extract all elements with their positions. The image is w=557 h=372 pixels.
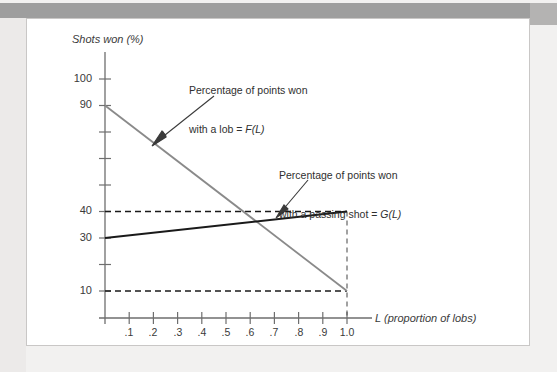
annotation-lob-line1: Percentage of points won — [189, 84, 308, 97]
annotation-lob-line2-prefix: with a lob = — [189, 123, 245, 135]
x-tick-label-0.5: .5 — [213, 326, 239, 338]
y-tick-label-10: 10 — [62, 284, 92, 296]
y-tick-label-40: 40 — [62, 204, 92, 216]
x-tick-label-1.0: 1.0 — [334, 326, 360, 338]
x-tick-label-0.9: .9 — [310, 326, 336, 338]
x-axis-label: L (proportion of lobs) — [375, 312, 476, 324]
x-tick-label-0.1: .1 — [116, 326, 142, 338]
annotation-lob-function: F(L) — [245, 123, 264, 135]
y-tick-label-90: 90 — [62, 98, 92, 110]
annotation-passing-shot: Percentage of points won with a passing … — [279, 143, 401, 247]
x-tick-label-0.7: .7 — [261, 326, 287, 338]
y-tick-label-30: 30 — [62, 231, 92, 243]
x-tick-label-0.2: .2 — [140, 326, 166, 338]
x-tick-label-0.3: .3 — [165, 326, 191, 338]
annotation-passing-shot-line1: Percentage of points won — [279, 169, 401, 182]
annotation-lob-line2: with a lob = F(L) — [189, 123, 308, 136]
y-tick-label-100: 100 — [62, 72, 92, 84]
annotation-passing-shot-line2-prefix: with a passing shot = — [279, 208, 380, 220]
page-root: Shots won (%) L (proportion of lobs) 100… — [0, 0, 557, 372]
x-tick-label-0.6: .6 — [237, 326, 263, 338]
x-tick-label-0.4: .4 — [189, 326, 215, 338]
annotation-passing-shot-line2: with a passing shot = G(L) — [279, 208, 401, 221]
x-tick-label-0.8: .8 — [286, 326, 312, 338]
annotation-passing-shot-function: G(L) — [380, 208, 401, 220]
y-axis-label: Shots won (%) — [72, 33, 144, 45]
